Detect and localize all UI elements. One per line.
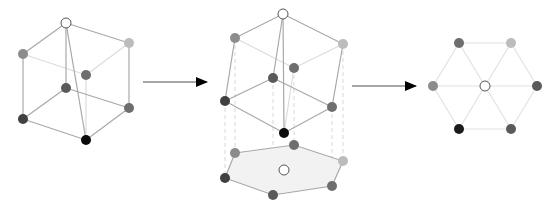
node-back (289, 140, 299, 150)
node-bottom-left (454, 124, 464, 134)
node-lower-left (220, 173, 230, 183)
node-center (480, 81, 490, 91)
node-right (532, 81, 542, 91)
node-back (81, 70, 91, 80)
node-lower-right (327, 102, 337, 112)
node-center (279, 165, 289, 175)
node-upper-right (338, 39, 348, 49)
node-top-left (454, 38, 464, 48)
node-left (428, 81, 438, 91)
node-upper-left (230, 33, 240, 43)
node-upper-right (124, 38, 134, 48)
node-lower-left (220, 96, 230, 106)
flat-hexagon (428, 38, 542, 134)
cube-original-edges (23, 23, 129, 140)
node-bottom (279, 128, 289, 138)
node-lower-right (124, 103, 134, 113)
cube-rotated-edges (225, 14, 343, 133)
node-inner (268, 73, 278, 83)
cube-original (18, 18, 134, 145)
node-inner (268, 190, 278, 200)
node-lower-left (18, 114, 28, 124)
node-lower-right (327, 181, 337, 191)
diagram-svg (0, 0, 555, 205)
node-back (289, 63, 299, 73)
diagram-canvas (0, 0, 555, 205)
projection-hexagon (220, 140, 348, 200)
node-top-right (506, 38, 516, 48)
node-upper-left (230, 148, 240, 158)
node-bottom (81, 135, 91, 145)
node-top (61, 18, 71, 28)
node-bottom-right (506, 124, 516, 134)
node-upper-left (18, 49, 28, 59)
node-upper-right (338, 156, 348, 166)
node-top (278, 9, 288, 19)
node-inner (61, 83, 71, 93)
